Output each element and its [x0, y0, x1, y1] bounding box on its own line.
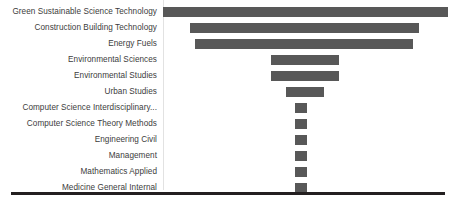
bar[interactable]: [295, 151, 307, 161]
bar-track: [0, 4, 456, 20]
bar-row: Urban Studies: [0, 84, 456, 100]
bar[interactable]: [163, 7, 448, 17]
bar-track: [0, 132, 456, 148]
bar-row: Engineering Civil: [0, 132, 456, 148]
bar-row: Computer Science Interdisciplinary...: [0, 100, 456, 116]
bar[interactable]: [286, 87, 324, 97]
bar[interactable]: [195, 39, 413, 49]
chart-container: Green Sustainable Science TechnologyCons…: [0, 0, 456, 207]
bar[interactable]: [271, 71, 339, 81]
bar-row: Energy Fuels: [0, 36, 456, 52]
bar-track: [0, 148, 456, 164]
bar-row: Mathematics Applied: [0, 164, 456, 180]
bar-track: [0, 116, 456, 132]
bar-track: [0, 52, 456, 68]
bar-rows: Green Sustainable Science TechnologyCons…: [0, 4, 456, 196]
bar[interactable]: [295, 119, 307, 129]
bar[interactable]: [295, 167, 307, 177]
bar-row: Computer Science Theory Methods: [0, 116, 456, 132]
bar-row: Green Sustainable Science Technology: [0, 4, 456, 20]
bar-track: [0, 68, 456, 84]
bar[interactable]: [295, 135, 307, 145]
bar[interactable]: [190, 23, 419, 33]
bar-track: [0, 84, 456, 100]
bar-track: [0, 164, 456, 180]
bar[interactable]: [295, 103, 307, 113]
plot-area: Green Sustainable Science TechnologyCons…: [0, 0, 456, 207]
chart-baseline: [11, 192, 445, 195]
bar-row: Management: [0, 148, 456, 164]
bar-track: [0, 36, 456, 52]
bar[interactable]: [271, 55, 339, 65]
bar-track: [0, 100, 456, 116]
bar-row: Environmental Studies: [0, 68, 456, 84]
bar-row: Construction Building Technology: [0, 20, 456, 36]
bar-track: [0, 20, 456, 36]
bar-row: Environmental Sciences: [0, 52, 456, 68]
